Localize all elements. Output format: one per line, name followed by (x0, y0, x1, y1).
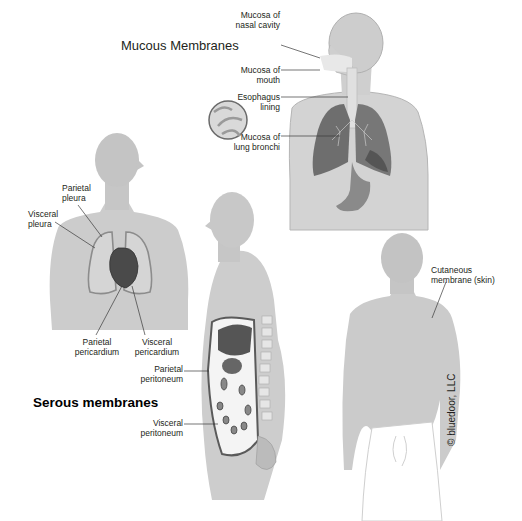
label-parietal-pericardium: Parietal pericardium (70, 337, 124, 357)
mucous-figure (289, 13, 428, 230)
label-parietal-pleura: Parietal pleura (62, 183, 91, 203)
label-visceral-pericardium: Visceral pericardium (128, 337, 186, 357)
label-visceral-peritoneum: Visceral peritoneum (128, 418, 183, 438)
copyright-notice: © bluedoor, LLC (446, 336, 457, 446)
label-mucosa-mouth: Mucosa of mouth (222, 65, 280, 85)
abdomen-figure (201, 192, 285, 500)
mucous-title: Mucous Membranes (121, 38, 239, 53)
membranes-diagram: Mucous Membranes Serous membranes Mucosa… (0, 0, 522, 521)
label-visceral-pleura: Visceral pleura (28, 209, 58, 229)
thorax-figure (50, 133, 189, 330)
label-cutaneous-membrane: Cutaneous membrane (skin) (431, 265, 495, 285)
label-esophagus-lining: Esophagus lining (222, 92, 280, 112)
label-parietal-peritoneum: Parietal peritoneum (128, 364, 183, 384)
label-mucosa-lung-bronchi: Mucosa of lung bronchi (218, 132, 280, 152)
label-mucosa-nasal-cavity: Mucosa of nasal cavity (222, 10, 280, 30)
serous-title: Serous membranes (33, 395, 158, 410)
